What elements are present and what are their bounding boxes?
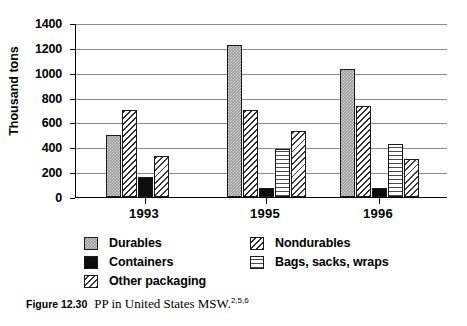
y-axis-labels: 1400 1200 1000 800 600 400 200 0 Thousan… (0, 24, 70, 198)
bar-1993-other-packaging[interactable] (154, 156, 169, 197)
plot-area (75, 24, 447, 198)
legend-swatch-containers-icon (84, 256, 98, 269)
x-axis-label-1993: 1993 (104, 206, 184, 221)
figure-caption-text: PP in United States MSW. (94, 296, 231, 311)
legend-label-containers: Containers (109, 255, 173, 269)
bar-1996-containers[interactable] (372, 188, 387, 197)
y-tick-label-600: 600 (42, 117, 62, 130)
bar-1995-containers[interactable] (259, 188, 274, 197)
bar-1993-nondurables[interactable] (122, 110, 137, 197)
legend-swatch-durables-icon (84, 237, 98, 250)
x-axis-label-1996: 1996 (338, 206, 418, 221)
chart-legend: Durables Nondurables Containers Bags, sa… (84, 236, 454, 288)
legend-item-durables[interactable]: Durables (84, 236, 162, 250)
legend-label-other-packaging: Other packaging (109, 274, 206, 288)
y-tickmark (70, 198, 75, 199)
y-axis-title: Thousand tons (7, 11, 21, 171)
y-tick-label-400: 400 (42, 142, 62, 155)
bar-1993-durables[interactable] (106, 135, 121, 197)
figure-caption-label: Figure 12.30 (26, 298, 87, 310)
bar-group-1995 (227, 24, 337, 197)
figure-caption: Figure 12.30PP in United States MSW.2,5,… (26, 296, 249, 312)
legend-item-containers[interactable]: Containers (84, 255, 173, 269)
bar-group-1996 (340, 24, 450, 197)
legend-swatch-bags-sacks-wraps-icon (250, 256, 264, 269)
legend-item-bags-sacks-wraps[interactable]: Bags, sacks, wraps (250, 255, 389, 269)
figure-caption-references: 2,5,6 (231, 296, 249, 305)
bar-1995-bags-sacks-wraps[interactable] (275, 149, 290, 198)
bar-1996-bags-sacks-wraps[interactable] (388, 144, 403, 197)
y-tick-label-200: 200 (42, 167, 62, 180)
legend-swatch-nondurables-icon (250, 237, 264, 250)
y-tick-label-800: 800 (42, 92, 62, 105)
legend-item-nondurables[interactable]: Nondurables (250, 236, 350, 250)
legend-label-durables: Durables (109, 236, 162, 250)
y-tick-label-0: 0 (55, 192, 62, 205)
y-tick-label-1000: 1000 (35, 67, 62, 80)
legend-swatch-other-packaging-icon (84, 275, 98, 288)
y-tick-label-1200: 1200 (35, 43, 62, 56)
bar-1995-durables[interactable] (227, 45, 242, 197)
legend-label-bags-sacks-wraps: Bags, sacks, wraps (275, 255, 389, 269)
x-axis-label-1995: 1995 (225, 206, 305, 221)
bar-group-1993 (106, 24, 196, 197)
bar-1995-other-packaging[interactable] (291, 131, 306, 198)
bar-1996-other-packaging[interactable] (404, 159, 419, 198)
x-tickmark-1996 (379, 197, 380, 204)
legend-label-nondurables: Nondurables (275, 236, 350, 250)
bar-1996-durables[interactable] (340, 69, 355, 197)
bar-1996-nondurables[interactable] (356, 106, 371, 197)
y-tick-label-1400: 1400 (35, 18, 62, 31)
x-tickmark-1995 (266, 197, 267, 204)
bar-1995-nondurables[interactable] (243, 110, 258, 197)
x-tickmark-1993 (145, 197, 146, 204)
legend-item-other-packaging[interactable]: Other packaging (84, 274, 206, 288)
bar-1993-containers[interactable] (138, 177, 153, 197)
figure-container: 1400 1200 1000 800 600 400 200 0 Thousan… (0, 0, 467, 326)
